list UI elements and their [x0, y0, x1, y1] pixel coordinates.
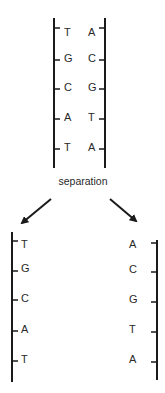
- top-right-base-4: T: [88, 111, 95, 123]
- bottom-right-base-4: T: [129, 323, 136, 335]
- bottom-right-base-3: G: [129, 293, 138, 305]
- top-right-base-5: A: [88, 141, 96, 153]
- double-stranded-dna: T A G C C G A T T A: [54, 18, 105, 168]
- bottom-left-base-2: G: [21, 262, 30, 274]
- arrow-to-left-strand-icon: [22, 199, 51, 223]
- top-right-base-2: C: [88, 52, 96, 64]
- bottom-left-base-1: T: [21, 238, 28, 250]
- bottom-right-base-5: A: [129, 353, 137, 365]
- top-left-base-1: T: [64, 26, 71, 38]
- top-left-base-3: C: [64, 81, 72, 93]
- top-left-base-4: A: [64, 111, 72, 123]
- arrow-to-right-strand-icon: [110, 199, 136, 221]
- bottom-left-base-3: C: [21, 292, 29, 304]
- bottom-right-base-1: A: [129, 238, 137, 250]
- top-left-base-5: T: [64, 141, 71, 153]
- separation-label: separation: [58, 175, 107, 187]
- top-left-base-2: G: [64, 52, 73, 64]
- top-right-base-3: G: [88, 81, 97, 93]
- top-right-base-1: A: [88, 26, 96, 38]
- bottom-left-base-5: T: [21, 353, 28, 365]
- bottom-left-base-4: A: [21, 323, 29, 335]
- bottom-right-base-2: C: [129, 263, 137, 275]
- separated-left-strand: T G C A T: [12, 232, 30, 382]
- dna-separation-diagram: T A G C C G A T T A separation T G: [0, 0, 165, 393]
- separated-right-strand: A C G T A: [129, 238, 157, 380]
